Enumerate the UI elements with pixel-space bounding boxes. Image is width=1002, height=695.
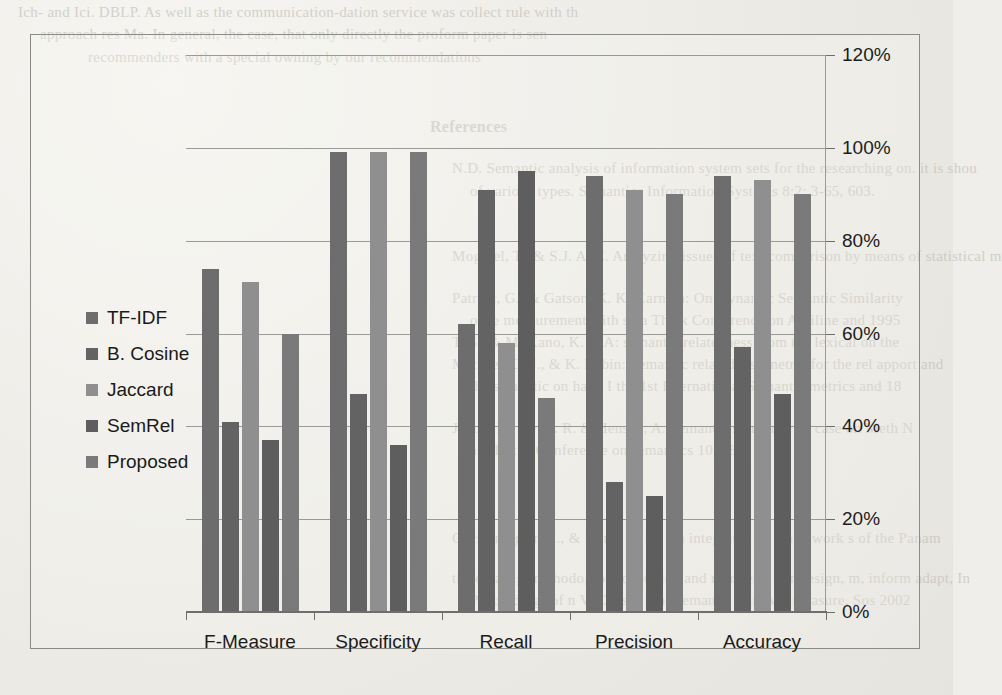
legend-item-tf-idf[interactable]: TF-IDF [86,307,189,329]
bar-chart: 120%100%80%60%40%20%0% F-MeasureSpecific… [30,34,920,649]
x-axis-category-labels: F-MeasureSpecificityRecallPrecisionAccur… [186,631,826,653]
y-axis-tick [826,334,835,335]
bar [646,496,663,612]
bar-group [698,55,826,612]
bar-groups [186,55,826,612]
x-axis-tick [314,611,315,620]
legend-item-proposed[interactable]: Proposed [86,451,189,473]
legend-item-jaccard[interactable]: Jaccard [86,379,189,401]
x-axis-tick [186,611,187,620]
legend-swatch-icon [86,312,98,324]
bar [242,282,259,612]
bar [586,176,603,612]
plot-area: 120%100%80%60%40%20%0% [186,55,826,612]
bar [714,176,731,612]
bar [390,445,407,612]
legend-label: B. Cosine [107,343,189,365]
bar [754,180,771,612]
legend-swatch-icon [86,456,98,468]
bar [370,152,387,612]
y-axis-tick-label: 0% [842,601,869,623]
bar [666,194,683,612]
x-axis-tick [570,611,571,620]
bar [626,190,643,612]
bar [410,152,427,612]
x-axis [186,611,826,612]
bar [734,347,751,612]
chart-legend: TF-IDFB. CosineJaccardSemRelProposed [86,307,189,473]
bar [794,194,811,612]
y-axis-tick-label: 40% [842,415,880,437]
bar [518,171,535,612]
x-axis-label-accuracy: Accuracy [698,631,826,653]
x-axis-tick [442,611,443,620]
bar [330,152,347,612]
y-axis-tick-label: 80% [842,230,880,252]
y-axis-tick [826,612,835,613]
legend-swatch-icon [86,420,98,432]
bar [606,482,623,612]
legend-label: TF-IDF [107,307,167,329]
x-axis-tick [826,611,827,620]
legend-swatch-icon [86,384,98,396]
legend-item-b-cosine[interactable]: B. Cosine [86,343,189,365]
y-axis-tick-label: 120% [842,44,891,66]
x-axis-label-recall: Recall [442,631,570,653]
bar [538,398,555,612]
bar-group [442,55,570,612]
legend-label: Jaccard [107,379,174,401]
y-axis-tick-label: 60% [842,323,880,345]
y-axis-tick-label: 100% [842,137,891,159]
y-axis-tick [826,241,835,242]
legend-label: SemRel [107,415,175,437]
background-text-line-1: Ich- and Ici. DBLP. As well as the commu… [18,4,578,21]
bar [282,334,299,613]
y-axis-tick [826,519,835,520]
legend-item-semrel[interactable]: SemRel [86,415,189,437]
x-axis-label-f-measure: F-Measure [186,631,314,653]
y-axis-tick [826,426,835,427]
bar [350,394,367,612]
bar [222,422,239,612]
y-axis-tick [826,55,835,56]
x-axis-label-specificity: Specificity [314,631,442,653]
x-axis-label-precision: Precision [570,631,698,653]
bar-group [186,55,314,612]
bar-group [314,55,442,612]
y-axis-tick [826,148,835,149]
bar [458,324,475,612]
gridline [186,612,826,613]
y-axis-tick-label: 20% [842,508,880,530]
legend-label: Proposed [107,451,188,473]
x-axis-tick [698,611,699,620]
bar-group [570,55,698,612]
bar [498,343,515,612]
legend-swatch-icon [86,348,98,360]
bar [202,269,219,612]
bar [478,190,495,612]
bar [774,394,791,612]
bar [262,440,279,612]
